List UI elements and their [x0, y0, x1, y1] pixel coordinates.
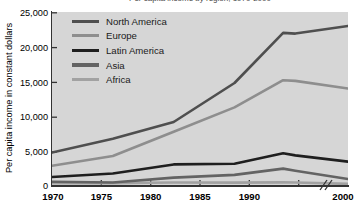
x-tick-1975: 1975	[91, 192, 112, 202]
y-axis-tick-labels: 25,000 20,000 15,000 10,000 5,000 0	[2, 0, 48, 209]
x-tick-1990: 1990	[239, 192, 260, 202]
legend-item-europe: Europe	[72, 29, 212, 44]
y-tick-20000: 20,000	[4, 44, 48, 53]
legend-swatch-europe	[72, 34, 99, 37]
chart-title-cropped: Per capita income by region, 1970-2000	[52, 0, 348, 6]
legend-swatch-africa	[72, 78, 99, 81]
y-axis-tick-marks	[52, 13, 57, 152]
y-tick-0: 0	[4, 182, 48, 191]
chart-figure: Per capita income by region, 1970-2000 P…	[0, 0, 357, 209]
y-axis-line	[51, 11, 52, 187]
legend-label-asia: Asia	[106, 60, 125, 71]
legend-item-asia: Asia	[72, 58, 212, 73]
legend-item-north-america: North America	[72, 14, 212, 29]
x-tick-1980: 1980	[140, 192, 161, 202]
legend-item-africa: Africa	[72, 72, 212, 87]
legend-label-north-america: North America	[106, 16, 167, 27]
chart-legend: North America Europe Latin America Asia …	[72, 14, 212, 87]
x-tick-2000: 2000	[332, 192, 353, 202]
legend-item-latin-america: Latin America	[72, 43, 212, 58]
x-axis-break-marker	[316, 178, 338, 192]
series-line-europe	[52, 80, 348, 166]
legend-swatch-latin-america	[72, 49, 99, 52]
y-tick-15000: 15,000	[4, 79, 48, 88]
chart-title-text: Per capita income by region, 1970-2000	[52, 0, 348, 3]
x-tick-1985: 1985	[189, 192, 210, 202]
x-axis-tick-labels: 1970 1975 1980 1985 1990 2000	[0, 192, 357, 206]
legend-swatch-north-america	[72, 20, 99, 23]
legend-label-latin-america: Latin America	[106, 45, 164, 56]
x-axis-line	[51, 185, 349, 187]
legend-label-africa: Africa	[106, 74, 131, 85]
y-tick-5000: 5,000	[4, 148, 48, 157]
series-line-latin-america	[52, 153, 348, 177]
legend-label-europe: Europe	[106, 30, 137, 41]
x-tick-1970: 1970	[42, 192, 63, 202]
legend-swatch-asia	[72, 63, 99, 66]
y-tick-25000: 25,000	[4, 9, 48, 18]
y-tick-10000: 10,000	[4, 113, 48, 122]
